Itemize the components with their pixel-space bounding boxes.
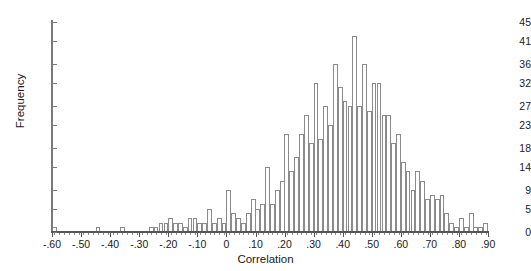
y-axis-tick [53, 64, 57, 65]
x-axis-minor-tick [476, 233, 477, 235]
x-axis-minor-tick [355, 233, 356, 235]
x-axis-minor-tick [253, 233, 254, 235]
x-axis-minor-tick [345, 233, 346, 235]
y-axis-tick-label: 36 [487, 59, 531, 69]
x-axis-minor-tick [287, 233, 288, 235]
x-axis-tick [226, 233, 227, 237]
x-axis-minor-tick [268, 233, 269, 235]
y-axis-tick-label: 14 [487, 162, 531, 172]
histogram-figure: 0591418232732364145 -.60-.50-.40-.30-.20… [0, 0, 531, 271]
y-axis-tick-label: 0 [487, 227, 531, 237]
x-axis-minor-tick [321, 233, 322, 235]
x-axis-minor-tick [98, 233, 99, 235]
x-axis-minor-tick [258, 233, 259, 235]
y-axis-tick [53, 148, 57, 149]
x-axis-tick [488, 233, 489, 237]
x-axis-minor-tick [205, 233, 206, 235]
x-axis-minor-tick [481, 233, 482, 235]
y-axis-tick-label: 9 [487, 185, 531, 195]
x-axis-minor-tick [263, 233, 264, 235]
x-axis-minor-tick [234, 233, 235, 235]
x-axis-minor-tick [306, 233, 307, 235]
x-axis-minor-tick [185, 233, 186, 235]
x-axis-minor-tick [311, 233, 312, 235]
x-axis-minor-tick [142, 233, 143, 235]
x-axis-minor-tick [83, 233, 84, 235]
x-axis-minor-tick [374, 233, 375, 235]
y-axis-tick-label: 23 [487, 120, 531, 130]
x-axis-tick [52, 233, 53, 237]
x-axis-minor-tick [54, 233, 55, 235]
x-axis-minor-tick [272, 233, 273, 235]
x-axis-minor-tick [379, 233, 380, 235]
x-axis-minor-tick [384, 233, 385, 235]
x-axis-minor-tick [403, 233, 404, 235]
x-axis-minor-tick [181, 233, 182, 235]
x-axis-minor-tick [127, 233, 128, 235]
y-axis-line [51, 20, 53, 233]
x-axis-minor-tick [394, 233, 395, 235]
x-axis-minor-tick [442, 233, 443, 235]
x-axis-minor-tick [428, 233, 429, 235]
y-axis-tick [53, 190, 57, 191]
x-axis-minor-tick [59, 233, 60, 235]
x-axis-minor-tick [166, 233, 167, 235]
x-axis-minor-tick [360, 233, 361, 235]
x-axis-minor-tick [292, 233, 293, 235]
x-axis-minor-tick [432, 233, 433, 235]
x-axis-minor-tick [282, 233, 283, 235]
x-axis-tick [314, 233, 315, 237]
x-axis-minor-tick [69, 233, 70, 235]
x-axis-tick [139, 233, 140, 237]
y-axis-tick [53, 41, 57, 42]
x-axis-tick [401, 233, 402, 237]
x-axis-minor-tick [195, 233, 196, 235]
x-axis-tick-label: .90 [468, 238, 508, 250]
x-axis-tick [430, 233, 431, 237]
x-axis-minor-tick [486, 233, 487, 235]
y-axis-tick [53, 106, 57, 107]
x-axis-minor-tick [156, 233, 157, 235]
x-axis-tick [168, 233, 169, 237]
x-axis-minor-tick [88, 233, 89, 235]
x-axis-minor-tick [326, 233, 327, 235]
x-axis-minor-tick [229, 233, 230, 235]
x-axis-minor-tick [113, 233, 114, 235]
y-axis-tick [53, 83, 57, 84]
x-axis-minor-tick [437, 233, 438, 235]
x-axis-minor-tick [176, 233, 177, 235]
x-axis-minor-tick [103, 233, 104, 235]
x-axis-minor-tick [297, 233, 298, 235]
x-axis-minor-tick [117, 233, 118, 235]
x-axis-tick [197, 233, 198, 237]
y-axis-tick [53, 167, 57, 168]
x-axis-minor-tick [389, 233, 390, 235]
x-axis-minor-tick [224, 233, 225, 235]
x-axis-minor-tick [147, 233, 148, 235]
y-axis-tick-label: 18 [487, 143, 531, 153]
x-axis-minor-tick [122, 233, 123, 235]
y-axis-tick [53, 22, 57, 23]
x-axis-minor-tick [452, 233, 453, 235]
x-axis-minor-tick [365, 233, 366, 235]
x-axis-minor-tick [350, 233, 351, 235]
x-axis-minor-tick [471, 233, 472, 235]
x-axis-minor-tick [369, 233, 370, 235]
x-axis-minor-tick [423, 233, 424, 235]
x-axis-minor-tick [171, 233, 172, 235]
x-axis-tick [372, 233, 373, 237]
x-axis-tick [285, 233, 286, 237]
x-axis-minor-tick [457, 233, 458, 235]
x-axis-minor-tick [335, 233, 336, 235]
x-axis-tick [81, 233, 82, 237]
y-axis-tick [53, 125, 57, 126]
x-axis-minor-tick [93, 233, 94, 235]
y-axis-tick-label: 41 [487, 36, 531, 46]
y-axis-tick-label: 5 [487, 204, 531, 214]
x-axis-minor-tick [447, 233, 448, 235]
x-axis-minor-tick [466, 233, 467, 235]
x-axis-minor-tick [151, 233, 152, 235]
y-axis-tick [53, 209, 57, 210]
x-axis-minor-tick [408, 233, 409, 235]
x-axis-minor-tick [248, 233, 249, 235]
